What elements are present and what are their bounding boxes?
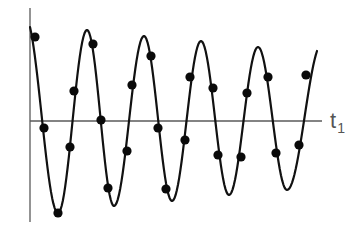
sample-point (294, 140, 303, 149)
sample-point (236, 152, 245, 161)
x-axis-label-symbol: t (330, 108, 336, 133)
sample-point (65, 142, 74, 151)
sample-point (185, 72, 194, 81)
sample-point (53, 208, 62, 217)
sample-point (88, 39, 97, 48)
sample-point (213, 150, 222, 159)
damped-sine-curve (30, 27, 317, 213)
sample-point (103, 183, 112, 192)
sample-point (161, 184, 170, 193)
sample-point (180, 135, 189, 144)
sample-point (122, 146, 131, 155)
sample-point (96, 115, 105, 124)
sample-point (69, 86, 78, 95)
sample-point (146, 51, 155, 60)
x-axis-label-subscript: 1 (337, 120, 345, 136)
sample-point (242, 88, 251, 97)
sample-point (153, 123, 162, 132)
sample-point (301, 70, 310, 79)
sample-point (127, 80, 136, 89)
sample-point (263, 72, 272, 81)
sample-point (39, 123, 48, 132)
x-axis-label: t1 (330, 110, 345, 139)
sample-point (30, 32, 39, 41)
sample-point (208, 83, 217, 92)
signal-chart (0, 0, 361, 233)
sample-point (271, 148, 280, 157)
